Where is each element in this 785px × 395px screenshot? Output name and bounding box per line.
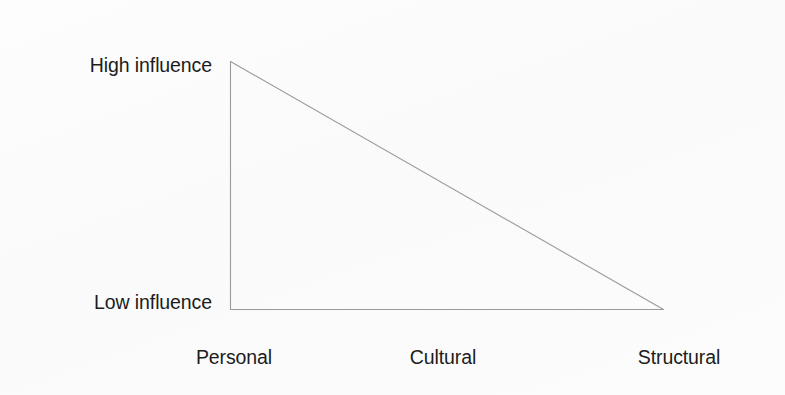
x-axis-label-structural: Structural (579, 348, 779, 368)
x-axis-label-cultural: Cultural (343, 348, 543, 368)
y-axis-label-high-influence: High influence (12, 56, 212, 76)
x-axis-label-personal: Personal (134, 348, 334, 368)
influence-triangle-figure: High influence Low influence Personal Cu… (0, 0, 785, 395)
y-axis-label-low-influence: Low influence (12, 293, 212, 313)
hypotenuse-declining-influence-line (231, 62, 664, 310)
